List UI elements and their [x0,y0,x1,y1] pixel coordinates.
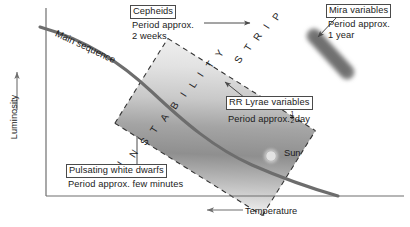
sun-marker [264,149,278,163]
sun-label: Sun [284,148,301,158]
callout-mira-variables: Mira variables Period approx. 1 year [326,4,391,42]
rr-lyrae-line2: Period approx.12day [226,110,313,125]
callout-pulsating-white-dwarfs: Pulsating white dwarfs Period approx. fe… [66,164,183,190]
x-axis-label: Temperature [245,206,297,216]
mira-line3: 1 year [326,30,391,42]
fraction-denominator: 2 [290,117,294,125]
fraction-numerator: 1 [290,111,294,118]
mira-title: Mira variables [326,4,391,18]
cepheids-title: Cepheids [130,5,176,19]
hr-diagram-figure: I N S T A B I L I T Y S T R I P Main seq… [0,0,410,227]
rr-lyrae-period-suffix: day [295,113,310,123]
cepheids-line2: Period approx. [130,19,194,31]
callout-rr-lyrae: RR Lyrae variables Period approx.12day [226,96,313,125]
rr-lyrae-title: RR Lyrae variables [226,96,313,110]
mira-line2: Period approx. [326,18,391,30]
white-dwarfs-title: Pulsating white dwarfs [66,164,167,178]
white-dwarfs-line2: Period approx. few minutes [66,178,183,190]
callout-cepheids: Cepheids Period approx. 2 weeks [130,5,194,43]
rr-lyrae-fraction: 12 [290,111,294,125]
y-axis-label: Luminosity [9,87,19,147]
cepheids-line3: 2 weeks [130,31,194,43]
rr-lyrae-period-prefix: Period approx. [228,113,290,123]
